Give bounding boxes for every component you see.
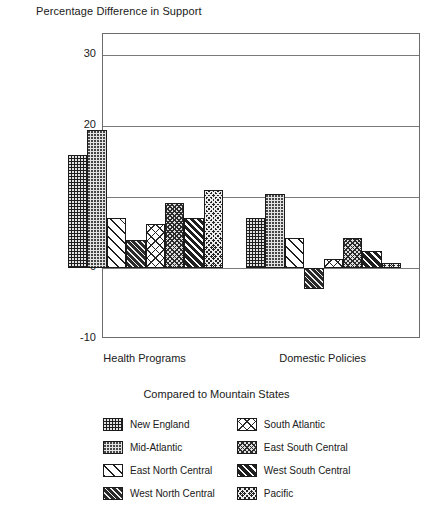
- bar: [246, 218, 265, 268]
- legend-swatch-icon: [237, 418, 257, 431]
- legend-swatch-icon: [237, 464, 257, 477]
- bar: [68, 155, 87, 268]
- legend-label: East North Central: [130, 465, 212, 476]
- legend-swatch-icon: [103, 418, 123, 431]
- legend-item-pacific[interactable]: Pacific: [237, 487, 351, 500]
- legend: New EnglandSouth AtlanticMid-AtlanticEas…: [103, 418, 350, 500]
- legend-item-west-south-central[interactable]: West South Central: [237, 464, 351, 477]
- legend-label: West South Central: [264, 465, 351, 476]
- chart-root: Percentage Difference in Support -100102…: [0, 0, 433, 522]
- legend-label: New England: [130, 419, 189, 430]
- legend-swatch-icon: [237, 441, 257, 454]
- bar: [304, 268, 323, 289]
- legend-label: West North Central: [130, 488, 215, 499]
- bar: [362, 251, 381, 268]
- legend-item-mid-atlantic[interactable]: Mid-Atlantic: [103, 441, 215, 454]
- legend-swatch-icon: [103, 464, 123, 477]
- legend-item-new-england[interactable]: New England: [103, 418, 215, 431]
- bar: [165, 203, 184, 268]
- legend-item-south-atlantic[interactable]: South Atlantic: [237, 418, 351, 431]
- bar: [382, 263, 401, 268]
- legend-title: Compared to Mountain States: [0, 388, 433, 400]
- category-label: Health Programs: [103, 352, 186, 364]
- legend-swatch-icon: [237, 487, 257, 500]
- legend-label: Pacific: [264, 488, 293, 499]
- bar: [285, 238, 304, 269]
- bar: [146, 224, 165, 268]
- y-tick-label: -10: [56, 331, 96, 343]
- legend-swatch-icon: [103, 441, 123, 454]
- legend-item-east-north-central[interactable]: East North Central: [103, 464, 215, 477]
- y-tick-label: 20: [56, 118, 96, 130]
- bar: [184, 218, 203, 268]
- legend-item-west-north-central[interactable]: West North Central: [103, 487, 215, 500]
- category-label: Domestic Policies: [279, 352, 366, 364]
- bar: [87, 130, 106, 268]
- bar: [204, 190, 223, 268]
- legend-item-east-south-central[interactable]: East South Central: [237, 441, 351, 454]
- bar: [126, 240, 145, 268]
- bar: [324, 259, 343, 268]
- legend-label: South Atlantic: [264, 419, 325, 430]
- y-tick-label: 30: [56, 47, 96, 59]
- chart-title: Percentage Difference in Support: [36, 5, 202, 17]
- bars-layer: [103, 34, 419, 337]
- legend-label: Mid-Atlantic: [130, 442, 182, 453]
- legend-label: East South Central: [264, 442, 348, 453]
- bar: [107, 218, 126, 268]
- plot-area: [102, 33, 420, 338]
- bar: [343, 238, 362, 269]
- bar: [265, 194, 284, 268]
- legend-swatch-icon: [103, 487, 123, 500]
